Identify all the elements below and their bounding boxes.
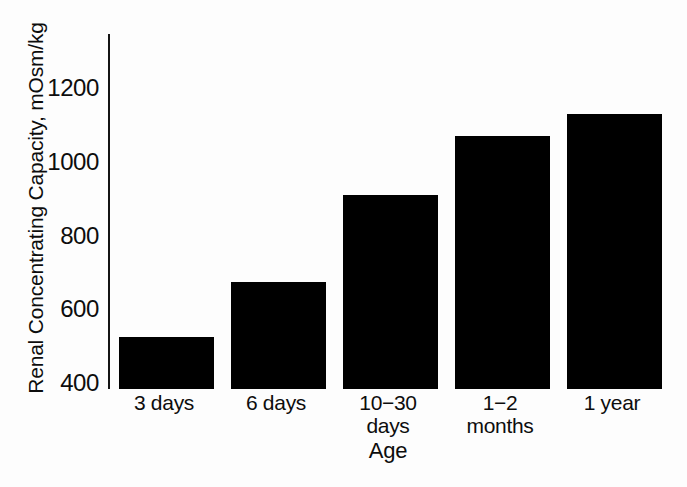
bar-1-2-months	[455, 136, 550, 389]
y-tick-label-1000: 1000	[47, 148, 99, 176]
bar-series	[110, 34, 668, 389]
category-label-line1: 1 year	[584, 391, 641, 414]
bar-3-days	[119, 337, 214, 389]
category-label-line1: 3 days	[134, 391, 194, 414]
category-label-line1: 6 days	[246, 391, 306, 414]
plot-area: 1200 1000 800 600 400 3 days 6 days 10−3…	[108, 34, 668, 389]
y-tick-label-600: 600	[60, 295, 99, 323]
category-label-1-year: 1 year	[556, 391, 668, 414]
chart-figure: Renal Concentrating Capacity, mOsm/kg 12…	[0, 0, 687, 487]
x-axis-title: Age	[108, 438, 668, 464]
category-label-1-2-months: 1−2 months	[444, 391, 556, 437]
category-label-3-days: 3 days	[108, 391, 220, 414]
y-tick-label-1200: 1200	[47, 74, 99, 102]
bar-1-year	[567, 114, 662, 389]
bar-6-days	[231, 282, 326, 389]
y-tick-label-400: 400	[60, 369, 99, 397]
y-tick-label-800: 800	[60, 222, 99, 250]
category-label-10-30-days: 10−30 days	[332, 391, 444, 437]
category-label-line1: 10−30	[359, 391, 416, 414]
y-axis-title: Renal Concentrating Capacity, mOsm/kg	[16, 8, 56, 408]
category-label-6-days: 6 days	[220, 391, 332, 414]
category-label-line2: months	[444, 414, 556, 437]
bar-10-30-days	[343, 195, 438, 389]
category-label-line2: days	[332, 414, 444, 437]
category-label-line1: 1−2	[483, 391, 518, 414]
